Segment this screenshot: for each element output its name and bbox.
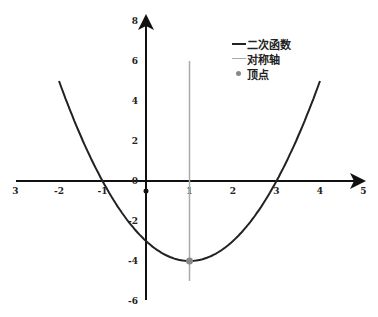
- x-tick-label: -2: [54, 186, 64, 196]
- y-tick-label: -6: [128, 296, 138, 306]
- y-tick-label: 8: [132, 16, 138, 26]
- x-tick-label: 5: [360, 186, 366, 196]
- y-tick-labels: 86420-2-4-6: [128, 16, 138, 306]
- chart-canvas: 3-2-112345 86420-2-4-6: [0, 0, 378, 317]
- line-swatch-icon: [232, 43, 246, 45]
- legend-label: 二次函数: [247, 36, 291, 52]
- y-tick-label: 0: [132, 176, 138, 186]
- legend: 二次函数 对称轴 顶点: [232, 36, 291, 81]
- dot-swatch-icon: [236, 71, 241, 76]
- legend-label: 顶点: [247, 66, 269, 82]
- vertex-point: [186, 258, 193, 265]
- x-tick-label: 3: [12, 186, 18, 196]
- y-tick-label: -4: [128, 256, 138, 266]
- legend-item-quadratic: 二次函数: [232, 36, 291, 51]
- y-tick-label: 2: [132, 136, 138, 146]
- legend-item-vertex: 顶点: [232, 66, 291, 81]
- line-swatch-icon: [232, 58, 246, 59]
- y-tick-label: 6: [132, 56, 138, 66]
- x-tick-label: 2: [230, 186, 236, 196]
- origin-dot: [144, 189, 149, 194]
- legend-label: 对称轴: [247, 51, 280, 67]
- x-tick-label: 3: [273, 186, 279, 196]
- legend-item-symmetry-axis: 对称轴: [232, 51, 291, 66]
- x-tick-label: 4: [317, 186, 323, 196]
- y-tick-label: 4: [132, 96, 138, 106]
